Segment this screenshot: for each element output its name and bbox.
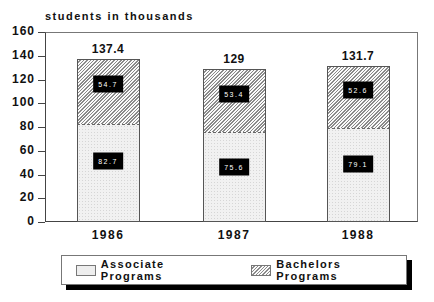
value-label: 52.6 — [343, 81, 373, 98]
segment-bachelors: 53.4 — [203, 69, 266, 132]
y-axis-title: students in thousands — [45, 10, 194, 22]
legend-label: Bachelors Programs — [276, 258, 406, 282]
legend: Associate Programs Bachelors Programs — [61, 255, 407, 285]
y-tick-mark — [38, 32, 45, 33]
x-tick-label: 1988 — [318, 228, 398, 242]
y-tick-label: 100 — [0, 95, 35, 109]
legend-item-bachelors: Bachelors Programs — [251, 258, 406, 282]
y-tick-label: 40 — [0, 167, 35, 181]
total-label: 129 — [194, 52, 274, 66]
y-tick-mark — [38, 80, 45, 81]
total-label: 131.7 — [318, 49, 398, 63]
y-tick-mark — [38, 175, 45, 176]
segment-bachelors: 52.6 — [327, 66, 390, 128]
bar-1988: 52.679.1 — [327, 66, 390, 222]
value-label: 53.4 — [219, 85, 249, 102]
y-tick-label: 160 — [0, 24, 35, 38]
y-tick-mark — [38, 222, 45, 223]
segment-bachelors: 54.7 — [77, 59, 140, 124]
y-tick-mark — [38, 103, 45, 104]
y-tick-mark — [38, 198, 45, 199]
y-tick-mark — [38, 151, 45, 152]
bar-1986: 54.782.7 — [77, 59, 140, 222]
x-tick-label: 1987 — [194, 228, 274, 242]
legend-item-associate: Associate Programs — [76, 258, 229, 282]
y-tick-label: 140 — [0, 48, 35, 62]
y-tick-label: 80 — [0, 119, 35, 133]
y-tick-mark — [38, 56, 45, 57]
value-label: 82.7 — [93, 153, 123, 170]
value-label: 79.1 — [343, 155, 373, 172]
segment-associate: 79.1 — [327, 128, 390, 222]
y-tick-label: 20 — [0, 190, 35, 204]
segment-associate: 82.7 — [77, 124, 140, 222]
total-label: 137.4 — [68, 42, 148, 56]
legend-label: Associate Programs — [101, 258, 230, 282]
bachelors-swatch-icon — [251, 265, 271, 276]
y-tick-label: 120 — [0, 72, 35, 86]
value-label: 75.6 — [219, 158, 249, 175]
associate-swatch-icon — [76, 265, 96, 276]
y-tick-mark — [38, 127, 45, 128]
bar-1987: 53.475.6 — [203, 69, 266, 222]
y-tick-label: 0 — [0, 214, 35, 228]
value-label: 54.7 — [93, 76, 123, 93]
segment-associate: 75.6 — [203, 132, 266, 222]
y-tick-label: 60 — [0, 143, 35, 157]
x-tick-label: 1986 — [68, 228, 148, 242]
